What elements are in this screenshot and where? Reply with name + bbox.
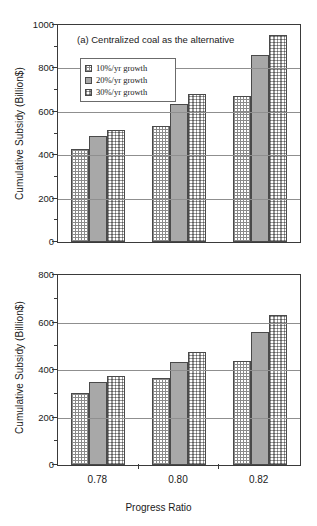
plot-area-a <box>57 24 301 243</box>
gridline <box>58 112 300 113</box>
x-tick-label: 0.78 <box>88 474 107 485</box>
legend-label: 30%/yr growth <box>96 88 147 97</box>
y-tick-mark <box>52 198 57 199</box>
bar <box>152 378 170 465</box>
y-minor-tick-mark <box>54 219 57 220</box>
x-axis-title: Progress Ratio <box>0 502 317 513</box>
y-minor-tick-mark <box>54 133 57 134</box>
gridline <box>58 155 300 156</box>
y-tick-mark <box>52 241 57 242</box>
gridline <box>58 418 300 419</box>
y-minor-tick-mark <box>54 345 57 346</box>
y-tick-mark <box>52 464 57 465</box>
y-axis-tick-labels-b: 0200400600800 <box>14 274 54 464</box>
y-tick-label: 1000 <box>33 19 54 30</box>
legend-swatch-icon <box>85 65 92 72</box>
y-minor-tick-mark <box>54 440 57 441</box>
y-minor-tick-mark <box>54 89 57 90</box>
gridline <box>58 323 300 324</box>
chart-panel-a: Cumulative Subsidy (Billion$) 0200400600… <box>0 0 317 268</box>
x-tick-label: 0.82 <box>249 474 268 485</box>
bar <box>71 393 89 465</box>
y-tick-mark <box>52 274 57 275</box>
bar <box>269 315 287 465</box>
bar <box>107 376 125 465</box>
gridline <box>58 199 300 200</box>
bar <box>89 136 107 242</box>
legend-swatch-icon <box>85 77 92 84</box>
y-tick-mark <box>52 369 57 370</box>
bar <box>152 126 170 242</box>
legend-item[interactable]: 10%/yr growth <box>85 62 169 74</box>
x-tick-mark <box>218 464 219 469</box>
legend-swatch-icon <box>85 89 92 96</box>
y-minor-tick-mark <box>54 393 57 394</box>
x-tick-mark <box>138 464 139 469</box>
y-tick-mark <box>52 322 57 323</box>
bar <box>107 130 125 242</box>
chart-panel-b: Cumulative Subsidy (Billion$) 0200400600… <box>0 262 317 526</box>
y-tick-mark <box>52 67 57 68</box>
bar <box>188 94 206 242</box>
bar <box>89 382 107 465</box>
y-axis-tick-labels-a: 02004006008001000 <box>14 24 54 241</box>
x-tick-label: 0.80 <box>168 474 187 485</box>
y-minor-tick-mark <box>54 176 57 177</box>
bar <box>269 35 287 242</box>
legend-item[interactable]: 30%/yr growth <box>85 86 169 98</box>
y-tick-mark <box>52 111 57 112</box>
bar <box>251 332 269 465</box>
legend-label: 20%/yr growth <box>96 76 147 85</box>
bar <box>233 96 251 242</box>
bar <box>71 149 89 242</box>
bar <box>170 362 188 465</box>
y-tick-mark <box>52 24 57 25</box>
y-minor-tick-mark <box>54 298 57 299</box>
legend-label: 10%/yr growth <box>96 64 147 73</box>
panel-title-a: (a) Centralized coal as the alternative <box>77 34 234 45</box>
y-tick-mark <box>52 154 57 155</box>
bar <box>170 104 188 242</box>
figure: Cumulative Subsidy (Billion$) 0200400600… <box>0 0 317 526</box>
bar <box>233 361 251 466</box>
plot-area-b <box>57 274 301 466</box>
y-minor-tick-mark <box>54 46 57 47</box>
gridline <box>58 370 300 371</box>
legend-item[interactable]: 20%/yr growth <box>85 74 169 86</box>
y-tick-mark <box>52 417 57 418</box>
bar <box>251 55 269 242</box>
legend-a: 10%/yr growth20%/yr growth30%/yr growth <box>80 58 176 102</box>
